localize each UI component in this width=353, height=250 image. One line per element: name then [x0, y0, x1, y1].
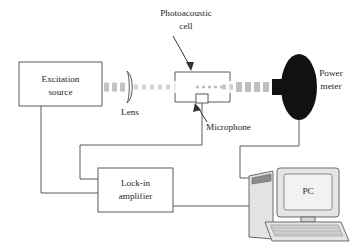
photoacoustic-cell-label-line1: Photoacoustic [160, 8, 212, 18]
lock-in-amplifier-label-line1: Lock-in [121, 178, 150, 188]
pc-monitor-stand [301, 217, 315, 222]
photoacoustic-setup-diagram: Excitation source Lens Power meter Lock-… [0, 0, 353, 250]
lock-in-amplifier-box[interactable] [98, 168, 173, 212]
pc-screen-label: PC [302, 186, 313, 196]
pc[interactable]: PC [249, 168, 349, 241]
microphone[interactable] [196, 94, 208, 103]
power-meter-label-line2: meter [321, 81, 342, 91]
lock-in-amplifier-label-line2: amplifier [119, 191, 153, 201]
microphone-body[interactable] [196, 94, 208, 103]
excitation-source[interactable]: Excitation source [19, 62, 102, 106]
pc-keyboard-keys [270, 225, 343, 236]
excitation-source-label-line2: source [49, 87, 73, 97]
diagram-canvas: Excitation source Lens Power meter Lock-… [0, 0, 353, 250]
power-meter-label-line1: Power [319, 68, 342, 78]
photoacoustic-cell-label-line2: cell [179, 21, 193, 31]
microphone-label: Microphone [206, 122, 251, 132]
lock-in-amplifier[interactable]: Lock-in amplifier [98, 168, 173, 212]
excitation-source-label-line1: Excitation [42, 74, 80, 84]
power-meter-head[interactable] [281, 54, 317, 120]
lens-label: Lens [121, 107, 139, 117]
